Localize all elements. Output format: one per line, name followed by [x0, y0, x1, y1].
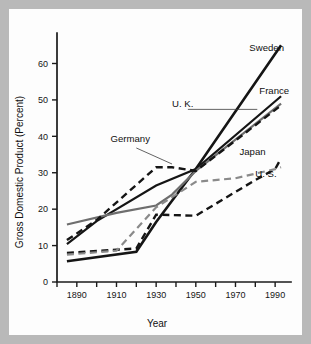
y-tick-label: 20 — [38, 204, 48, 214]
x-tick-label: 1890 — [67, 290, 87, 300]
label-france: France — [259, 85, 289, 96]
series-line-japan — [67, 158, 281, 253]
x-axis-title: Year — [147, 318, 168, 329]
germany-leader-line — [136, 148, 172, 164]
series-line-u-s — [67, 167, 281, 254]
figure-card: 0102030405060189019101930195019701990 Sw… — [9, 9, 302, 335]
y-axis-title: Gross Domestic Product (Percent) — [14, 96, 25, 248]
label-germany: Germany — [111, 133, 151, 144]
x-tick-label: 1930 — [146, 290, 166, 300]
y-tick-label: 50 — [38, 95, 48, 105]
series-line-france — [67, 96, 281, 244]
y-tick-label: 10 — [38, 241, 48, 251]
x-tick-label: 1950 — [186, 290, 206, 300]
y-tick-label: 30 — [38, 168, 48, 178]
y-tick-label: 0 — [43, 277, 48, 287]
series-labels: SwedenFranceU. K.GermanyJapanU. S. — [111, 42, 290, 179]
label-u-s: U. S. — [255, 168, 276, 179]
y-tick-label: 40 — [38, 132, 48, 142]
x-tick-label: 1910 — [106, 290, 126, 300]
figure-frame: 0102030405060189019101930195019701990 Sw… — [0, 0, 311, 344]
series-line-u-k — [67, 104, 281, 225]
label-japan: Japan — [239, 146, 265, 157]
gdp-line-chart: 0102030405060189019101930195019701990 Sw… — [9, 9, 302, 335]
axis-spines — [57, 33, 291, 282]
label-sweden: Sweden — [249, 42, 284, 53]
y-tick-label: 60 — [38, 59, 48, 69]
label-u-k: U. K. — [172, 98, 193, 109]
x-tick-label: 1990 — [265, 290, 285, 300]
x-tick-label: 1970 — [225, 290, 245, 300]
